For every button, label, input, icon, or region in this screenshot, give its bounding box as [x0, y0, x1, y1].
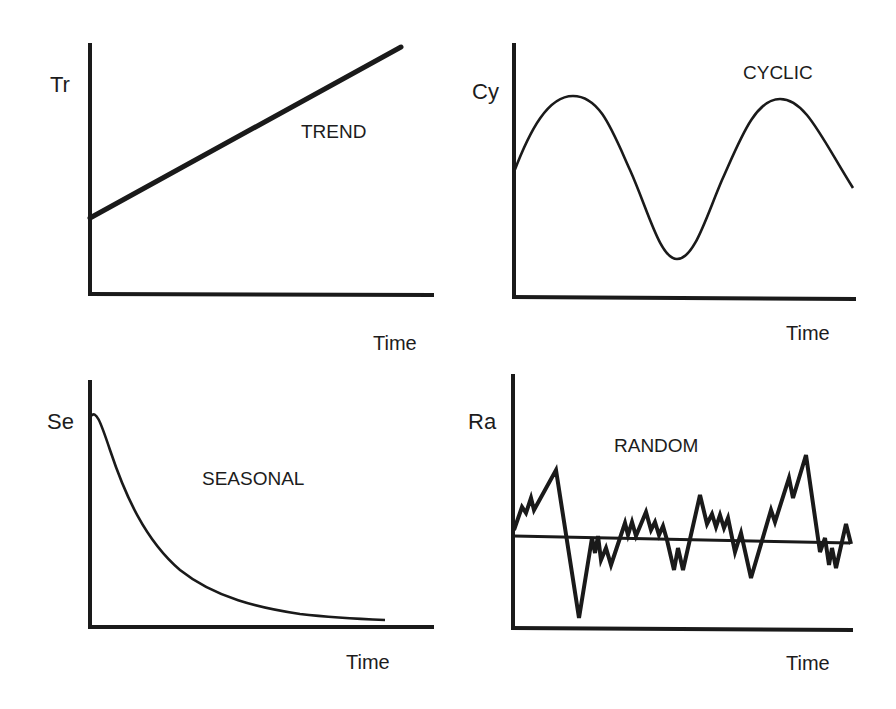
cyclic-x-label: Time — [786, 323, 830, 343]
seasonal-y-label: Se — [47, 411, 74, 433]
random-series — [514, 455, 851, 618]
cyclic-x-axis — [512, 297, 856, 299]
random-y-label: Ra — [468, 411, 496, 433]
trend-panel — [88, 43, 434, 295]
random-x-axis — [511, 628, 853, 630]
seasonal-x-label: Time — [346, 652, 390, 672]
time-series-components-figure — [0, 0, 896, 709]
random-panel — [511, 374, 853, 630]
cyclic-y-label: Cy — [472, 81, 499, 103]
cyclic-curve — [514, 96, 853, 259]
trend-y-label: Tr — [50, 74, 70, 96]
seasonal-panel — [88, 380, 434, 629]
random-x-label: Time — [786, 653, 830, 673]
trend-x-label: Time — [373, 333, 417, 353]
seasonal-curve — [91, 414, 385, 620]
cyclic-title: CYCLIC — [743, 63, 813, 82]
seasonal-title: SEASONAL — [202, 469, 304, 488]
trend-x-axis — [88, 294, 434, 295]
random-title: RANDOM — [614, 436, 698, 455]
trend-title: TREND — [301, 122, 366, 141]
